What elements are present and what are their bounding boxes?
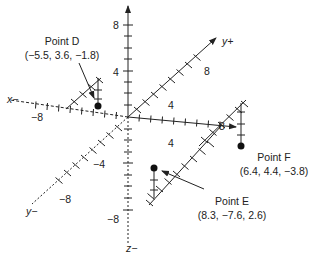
point-d-marker [95, 103, 102, 110]
y-axis-negative [32, 117, 128, 204]
point-e-name: Point E [190, 196, 274, 207]
x-axis-negative [10, 100, 128, 119]
z-axis-negative [123, 117, 133, 244]
point-e-coords: (8.3, −7.6, 2.6) [190, 210, 274, 221]
point-d-coords: (−5.5, 3.6, −1.8) [8, 50, 116, 61]
z-axis-positive [123, 6, 133, 117]
point-f-coords: (6.4, 4.4, −3.8) [238, 166, 310, 177]
y-tick-neg4: −4 [93, 159, 105, 170]
y-tick-8: 8 [204, 66, 210, 77]
point-e-label: Point E (8.3, −7.6, 2.6) [190, 196, 274, 220]
y-pos-axis-label: y+ [222, 36, 233, 47]
z-tick-4: 4 [113, 67, 119, 78]
y-tick-4: 4 [168, 100, 174, 111]
point-d-name: Point D [8, 36, 116, 47]
point-f-label: Point F (6.4, 4.4, −3.8) [238, 152, 310, 176]
x-tick-4: 4 [168, 138, 174, 149]
point-e-construction [146, 125, 222, 206]
point-e-leader [162, 171, 204, 189]
x-neg-axis-label: x− [7, 94, 18, 105]
point-f-marker [238, 143, 245, 150]
point-f-name: Point F [238, 152, 310, 163]
z-tick-8: 8 [113, 20, 119, 31]
y-neg-axis-label: y− [26, 206, 37, 217]
point-e-marker [151, 165, 158, 172]
z-tick-neg8: −8 [107, 214, 119, 225]
point-d-label: Point D (−5.5, 3.6, −1.8) [8, 36, 116, 60]
y-tick-neg8: −8 [59, 194, 71, 205]
x-tick-neg8: −8 [31, 112, 43, 123]
z-neg-axis-label: z− [126, 243, 137, 254]
x-tick-8: 8 [219, 121, 225, 132]
